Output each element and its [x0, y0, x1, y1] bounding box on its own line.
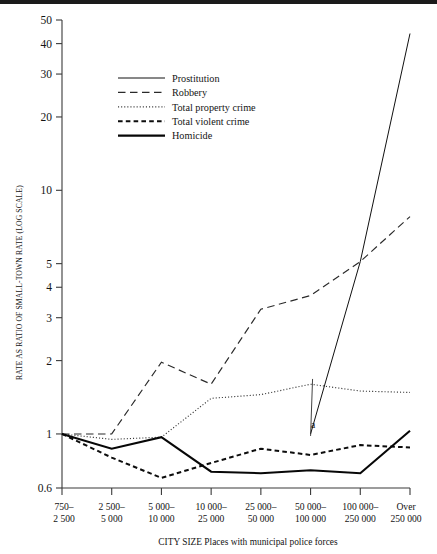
x-axis-tick-label: 50 000 — [248, 513, 275, 524]
x-axis-tick-label: 10 000 — [148, 513, 175, 524]
y-axis: 5040302010543210.6 — [38, 14, 62, 494]
y-axis-title: RATE AS RATIO OF SMALL-TOWN RATE (LOG SC… — [15, 185, 24, 380]
series-line-robbery — [62, 217, 410, 434]
x-axis-tick-label: Over — [396, 501, 416, 512]
y-axis-tick-label: 0.6 — [38, 482, 53, 494]
footnote-annotation: a — [311, 420, 316, 430]
legend-label-homicide: Homicide — [172, 130, 213, 141]
legend-label-prostitution: Prostitution — [172, 73, 220, 84]
y-axis-tick-label: 40 — [41, 38, 53, 50]
y-axis-tick-label: 3 — [46, 312, 52, 324]
x-axis-title-text: CITY SIZE Places with municipal police f… — [158, 537, 338, 547]
x-axis-tick-label: 5 000– — [148, 501, 175, 512]
series-group — [62, 34, 410, 478]
y-axis-tick-label: 2 — [46, 355, 52, 367]
legend-label-total-property-crime: Total property crime — [172, 102, 256, 113]
x-axis-tick-label: 750– — [54, 501, 73, 512]
x-axis-tick-label: 25 000 — [198, 513, 225, 524]
x-axis-tick-label: 100 000 — [295, 513, 326, 524]
x-axis-tick-label: 100 000– — [342, 501, 378, 512]
x-axis-tick-label: 10 000– — [196, 501, 227, 512]
y-axis-tick-label: 4 — [46, 281, 52, 293]
legend-label-total-violent-crime: Total violent crime — [172, 116, 250, 127]
x-axis-tick-label: 250 000 — [345, 513, 376, 524]
y-axis-tick-label: 5 — [46, 258, 52, 270]
y-axis-tick-label: 30 — [41, 68, 53, 80]
series-line-prostitution — [311, 34, 410, 434]
line-chart: 5040302010543210.6 750–2 5002 500–5 0005… — [0, 0, 437, 554]
figure-container: 5040302010543210.6 750–2 5002 500–5 0005… — [0, 0, 437, 554]
x-axis-tick-label: 2 500– — [99, 501, 126, 512]
y-axis-tick-label: 10 — [41, 184, 53, 196]
series-line-total-violent-crime — [62, 434, 410, 478]
y-axis-title-text: RATE AS RATIO OF SMALL-TOWN RATE (LOG SC… — [15, 185, 24, 380]
footnote-marker-a: a — [311, 420, 316, 430]
x-axis: 750–2 5002 500–5 0005 000–10 00010 000–2… — [53, 488, 422, 524]
y-axis-tick-label: 1 — [46, 428, 52, 440]
x-axis-tick-label: 50 000– — [295, 501, 326, 512]
x-axis-tick-label: 2 500 — [53, 513, 75, 524]
y-axis-tick-label: 50 — [41, 14, 53, 26]
chart-legend: ProstitutionRobberyTotal property crimeT… — [118, 73, 256, 142]
series-line-homicide — [62, 431, 410, 473]
x-axis-tick-label: 250 000 — [390, 513, 421, 524]
x-axis-tick-label: 25 000– — [245, 501, 276, 512]
legend-label-robbery: Robbery — [172, 87, 208, 98]
y-axis-tick-label: 20 — [41, 111, 53, 123]
x-axis-tick-label: 5 000 — [101, 513, 123, 524]
